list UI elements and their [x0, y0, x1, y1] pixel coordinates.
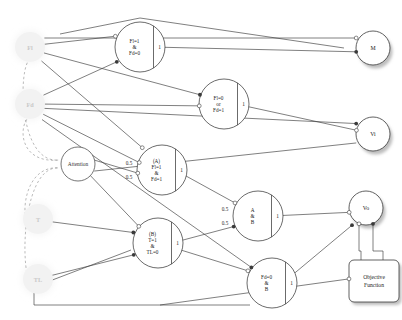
gate-node-G5[interactable]: A&B10.50.5: [222, 191, 283, 241]
output-node-Vo[interactable]: Vo: [349, 191, 383, 225]
svg-text:Fd=1: Fd=1: [213, 107, 224, 113]
svg-text:Vi: Vi: [370, 131, 376, 137]
svg-text:&: &: [250, 213, 254, 219]
svg-text:0.5: 0.5: [126, 160, 133, 166]
edge-Vo-to-objective: [373, 224, 383, 260]
svg-text:Fd=0: Fd=0: [261, 274, 272, 280]
svg-text:B: B: [251, 219, 255, 225]
edge-Attention-to-G4: [91, 176, 139, 226]
svg-text:&: &: [132, 44, 136, 50]
terminal-inhibitory: [137, 224, 141, 228]
terminal-excitatory: [198, 93, 202, 97]
edge-G4-to-G6: [181, 250, 248, 271]
edge-G3-to-G5: [184, 175, 235, 203]
svg-text:TL: TL: [34, 276, 42, 283]
terminal-inhibitory: [354, 36, 358, 40]
svg-text:&: &: [264, 280, 268, 286]
terminal-excitatory: [132, 253, 136, 257]
svg-text:M: M: [370, 45, 375, 51]
svg-text:Fl=0: Fl=0: [214, 95, 224, 101]
terminal-inhibitory: [355, 128, 359, 132]
terminal-excitatory: [249, 266, 253, 270]
input-node-Fd[interactable]: Fd: [15, 89, 45, 119]
svg-text:0.5: 0.5: [222, 220, 229, 226]
svg-text:1: 1: [290, 280, 293, 286]
terminal-excitatory: [232, 225, 236, 229]
edge-G5-to-Vo: [282, 212, 349, 215]
node-layer: FlFdTTLAttentionFl=1&Fd=01Fl=0orFd=11(A)…: [15, 22, 399, 308]
input-node-T[interactable]: T: [23, 204, 53, 234]
terminal-excitatory: [115, 60, 119, 64]
svg-text:1: 1: [276, 213, 279, 219]
svg-text:1: 1: [180, 167, 183, 173]
terminal-excitatory: [350, 223, 354, 227]
output-node-M[interactable]: M: [356, 31, 390, 65]
objective-function-box[interactable]: ObjectiveFunction: [349, 260, 399, 302]
svg-text:Objective: Objective: [363, 274, 385, 280]
diagram-svg: FlFdTTLAttentionFl=1&Fd=01Fl=0orFd=11(A)…: [0, 0, 402, 320]
edge-G2-to-Vi: [248, 107, 357, 131]
edge-G1-to-M: [164, 47, 356, 52]
svg-text:Fd: Fd: [26, 101, 34, 108]
edge-top-rail-right: [140, 18, 344, 48]
svg-text:Fd=1: Fd=1: [151, 176, 162, 182]
input-node-TL[interactable]: TL: [23, 264, 53, 294]
terminal-excitatory: [131, 231, 135, 235]
attention-node[interactable]: Attention: [61, 147, 95, 181]
terminal-inhibitory: [136, 171, 140, 175]
svg-text:Attention: Attention: [68, 161, 89, 167]
svg-text:1: 1: [176, 240, 179, 246]
terminal-inhibitory: [347, 277, 351, 281]
edge-TL-to-G4: [52, 255, 134, 276]
svg-text:Function: Function: [364, 282, 384, 288]
svg-text:B: B: [265, 286, 269, 292]
dashed-edge-Fd-to-attention: [23, 116, 59, 160]
edge-Fd-to-G2: [44, 104, 199, 106]
gate-node-G6[interactable]: Fd=0&B1: [247, 258, 297, 308]
svg-text:&: &: [154, 170, 158, 176]
terminal-inhibitory: [246, 269, 250, 273]
gate-node-G2[interactable]: Fl=0orFd=11: [199, 79, 249, 129]
edge-G6-to-Vo: [292, 225, 352, 275]
svg-text:or: or: [216, 101, 221, 107]
svg-text:Vo: Vo: [363, 205, 369, 211]
edge-Vo-to-objective: [359, 224, 361, 260]
terminal-inhibitory: [357, 222, 361, 226]
edge-Fd-to-G1: [43, 62, 116, 95]
terminal-inhibitory: [137, 161, 141, 165]
svg-text:&: &: [150, 243, 154, 249]
svg-text:A: A: [251, 207, 255, 213]
edge-G4-to-G5: [182, 227, 234, 241]
svg-text:1: 1: [242, 101, 245, 107]
edge-Attention-to-Vi: [94, 143, 356, 171]
terminal-inhibitory: [197, 104, 201, 108]
terminal-inhibitory: [140, 146, 144, 150]
svg-text:TL=0: TL=0: [147, 249, 159, 255]
terminal-excitatory: [371, 222, 375, 226]
input-node-Fl[interactable]: Fl: [15, 32, 45, 62]
svg-text:Fd=0: Fd=0: [129, 50, 140, 56]
svg-text:Fl: Fl: [27, 44, 33, 51]
svg-text:T=1: T=1: [148, 237, 157, 243]
edge-T-to-G4: [52, 222, 133, 233]
terminal-excitatory: [354, 50, 358, 54]
svg-text:Fl=1: Fl=1: [130, 38, 140, 44]
edge-Fl-to-G1: [44, 36, 115, 44]
terminal-excitatory: [354, 122, 358, 126]
terminal-inhibitory: [113, 34, 117, 38]
diagram-canvas: FlFdTTLAttentionFl=1&Fd=01Fl=0orFd=11(A)…: [0, 0, 402, 320]
terminal-inhibitory: [347, 210, 351, 214]
svg-text:Fl=1: Fl=1: [152, 164, 162, 170]
svg-text:0.5: 0.5: [126, 174, 133, 180]
gate-node-G3[interactable]: (A)Fl=1&Fd=110.50.5: [126, 145, 187, 195]
svg-text:1: 1: [158, 44, 161, 50]
svg-text:0.5: 0.5: [222, 206, 229, 212]
output-node-Vi[interactable]: Vi: [356, 117, 390, 151]
gate-node-G1[interactable]: Fl=1&Fd=01: [115, 22, 165, 72]
terminal-inhibitory: [233, 201, 237, 205]
